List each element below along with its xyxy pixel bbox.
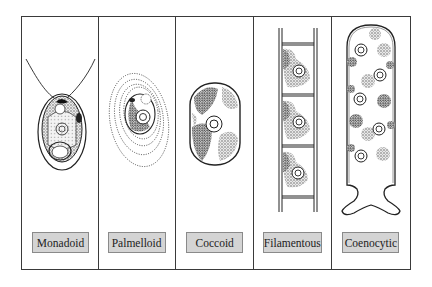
algal-forms-figure: Monadoid Palmelloid Coccoi <box>21 16 411 270</box>
label-coccoid: Coccoid <box>186 232 243 253</box>
label-filamentous: Filamentous <box>263 232 322 253</box>
label-palmelloid: Palmelloid <box>108 232 166 253</box>
panel-palmelloid: Palmelloid <box>99 17 177 269</box>
flagellum-left-icon <box>26 59 59 101</box>
panel-monadoid: Monadoid <box>22 17 99 269</box>
panel-coccoid: Coccoid <box>176 17 254 269</box>
label-monadoid: Monadoid <box>32 232 89 253</box>
panel-coenocytic: Coenocytic <box>332 17 410 269</box>
label-coenocytic: Coenocytic <box>342 232 399 253</box>
panel-filamentous: Filamentous <box>254 17 333 269</box>
